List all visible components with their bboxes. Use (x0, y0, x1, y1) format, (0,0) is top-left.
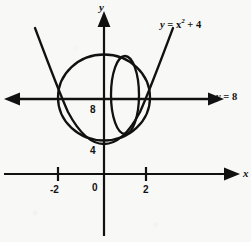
y-axis-label: y (99, 2, 104, 13)
x-tick-label-minus2: -2 (50, 185, 59, 195)
line-equation-body: = 8 (221, 91, 237, 102)
figure-canvas: y x y = x2 + 4 y = 8 8 4 0 -2 2 (0, 0, 251, 242)
x-axis-arrow (224, 168, 240, 181)
parabola-equation-suffix: + 4 (185, 19, 201, 30)
y-mark-4: 4 (90, 146, 96, 156)
x-tick-label-2: 2 (143, 185, 149, 195)
line-y8-arrow-left (4, 93, 20, 106)
x-axis (4, 167, 240, 181)
y-mark-8: 8 (90, 105, 96, 115)
graph-drawing (0, 0, 251, 242)
origin-label: 0 (92, 183, 98, 193)
parabola-equation-body: = x (165, 19, 181, 30)
y-axis (98, 11, 111, 236)
y-axis-arrow (98, 11, 111, 27)
x-axis-label: x (243, 168, 249, 179)
line-y-equals-8 (4, 93, 224, 106)
line-equation-label: y = 8 (216, 92, 237, 103)
parabola-equation-label: y = x2 + 4 (160, 18, 201, 30)
